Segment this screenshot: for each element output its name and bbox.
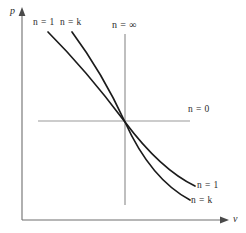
pv-diagram-figure: p v n = 1 n = k n = ∞ n = 0 n = 1 n = k	[0, 0, 246, 233]
annotation-n-equals-infinity: n = ∞	[112, 20, 137, 30]
p-axis	[19, 7, 26, 220]
v-axis	[22, 217, 229, 224]
p-axis-label: p	[10, 6, 15, 16]
annotation-n-equals-k-top: n = k	[60, 18, 82, 28]
process-curve-n-equals-k	[72, 32, 190, 200]
annotation-n-equals-0: n = 0	[188, 105, 210, 115]
v-axis-label: v	[233, 214, 237, 224]
annotation-n-equals-k-bottom: n = k	[191, 196, 213, 206]
annotation-n-equals-1-bottom: n = 1	[197, 181, 219, 191]
annotation-n-equals-1-top: n = 1	[33, 18, 55, 28]
process-curve-n-equals-1	[48, 32, 195, 186]
